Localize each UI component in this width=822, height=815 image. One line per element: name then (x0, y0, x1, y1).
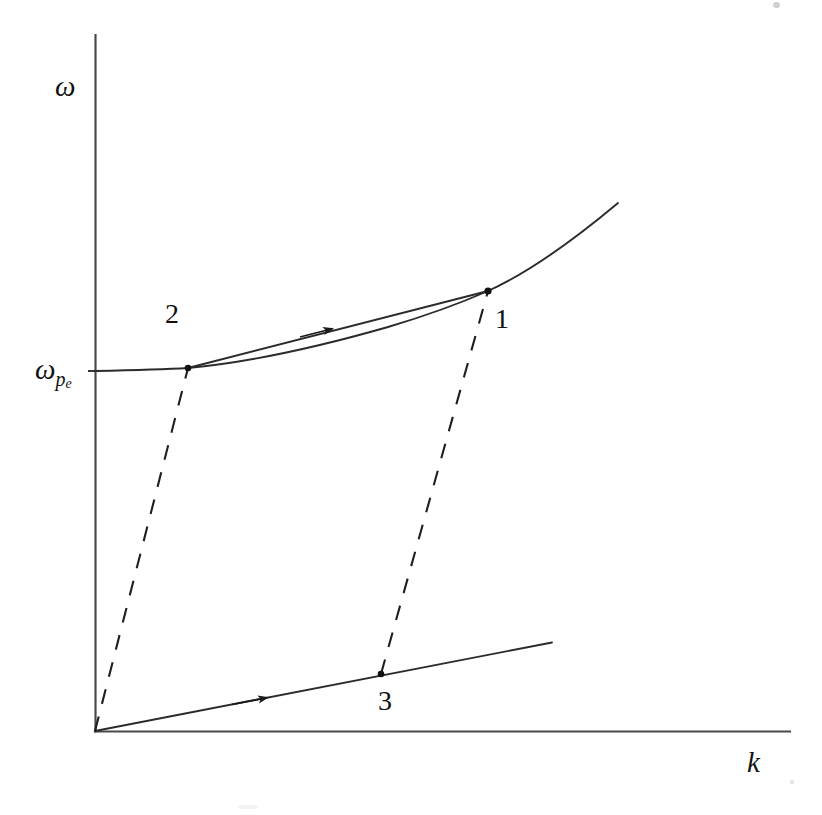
point-3-label: 3 (378, 687, 392, 715)
y-axis-label: ω (55, 72, 75, 101)
chord-2-to-1 (188, 291, 488, 368)
point-1-label: 1 (495, 305, 509, 333)
scan-artifact-smudge (238, 805, 258, 809)
dashed-origin-to-point-2 (95, 368, 188, 731)
dispersion-figure: ω k ωpe 1 2 3 (0, 0, 822, 815)
acoustic-line (95, 643, 552, 732)
point-2-marker (185, 365, 192, 372)
scan-artifact-speck (773, 2, 780, 8)
dispersion-curve (95, 203, 618, 371)
point-1-marker (484, 287, 491, 294)
arrow-on-acoustic-line (232, 698, 268, 705)
plot-canvas (0, 0, 822, 815)
scan-artifact-speck-2 (790, 780, 794, 784)
x-axis-label: k (747, 748, 760, 777)
omega-pe-subscript-e: e (65, 376, 71, 391)
point-2-label: 2 (165, 300, 179, 328)
point-3-marker (378, 671, 385, 678)
omega-pe-base: ω (35, 353, 55, 385)
dashed-point-3-to-point-1 (381, 291, 488, 674)
omega-pe-label: ωpe (35, 355, 72, 391)
omega-pe-subscript-p: p (55, 368, 65, 390)
